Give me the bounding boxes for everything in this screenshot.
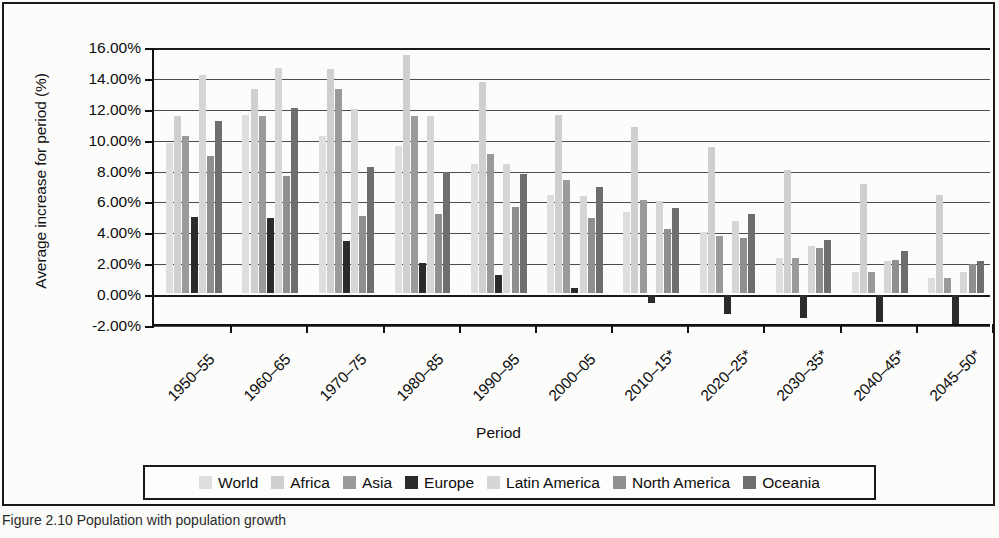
bar[interactable]: [215, 121, 222, 293]
bar[interactable]: [182, 136, 189, 293]
bar[interactable]: [672, 208, 679, 293]
bar-group: [547, 48, 603, 324]
legend-item-oceania[interactable]: Oceania: [743, 474, 820, 492]
bar[interactable]: [901, 251, 908, 293]
bar[interactable]: [724, 295, 731, 314]
bar[interactable]: [291, 108, 298, 293]
x-axis-tick-label: 1950–55: [164, 350, 218, 404]
y-axis-tick-label: 8.00%: [97, 162, 141, 180]
x-axis-tick: [383, 324, 385, 333]
legend-item-africa[interactable]: Africa: [271, 474, 330, 492]
bar[interactable]: [520, 174, 527, 293]
bar[interactable]: [359, 216, 366, 293]
bar[interactable]: [868, 272, 875, 293]
legend-swatch-icon: [343, 476, 356, 489]
bar[interactable]: [251, 89, 258, 293]
bar[interactable]: [876, 295, 883, 322]
bar[interactable]: [555, 115, 562, 293]
bar[interactable]: [343, 241, 350, 293]
bar[interactable]: [784, 170, 791, 294]
bar[interactable]: [852, 272, 859, 294]
bar[interactable]: [275, 68, 282, 293]
bar[interactable]: [740, 238, 747, 293]
bar[interactable]: [395, 146, 402, 293]
gridline: [154, 326, 990, 327]
bar[interactable]: [207, 156, 214, 293]
bar[interactable]: [716, 236, 723, 293]
bar[interactable]: [944, 278, 951, 293]
bar[interactable]: [403, 55, 410, 293]
bar-group: [242, 48, 298, 324]
bar[interactable]: [936, 195, 943, 293]
legend-label: Africa: [290, 474, 330, 492]
bar[interactable]: [580, 196, 587, 293]
bar[interactable]: [800, 295, 807, 317]
bar[interactable]: [656, 201, 663, 293]
bar[interactable]: [267, 218, 274, 293]
y-axis-tick: [145, 141, 154, 143]
x-axis-tick-label: 1980–85: [393, 350, 447, 404]
bar[interactable]: [928, 278, 935, 293]
bar[interactable]: [479, 82, 486, 293]
bar[interactable]: [884, 261, 891, 293]
bar[interactable]: [547, 195, 554, 293]
bar[interactable]: [487, 154, 494, 293]
bar[interactable]: [503, 164, 510, 293]
bar[interactable]: [335, 89, 342, 294]
bar-group: [852, 48, 908, 324]
bar[interactable]: [860, 184, 867, 293]
bar[interactable]: [588, 218, 595, 293]
bar[interactable]: [191, 217, 198, 293]
bar[interactable]: [969, 264, 976, 293]
bar[interactable]: [824, 240, 831, 293]
bar[interactable]: [283, 176, 290, 293]
bar[interactable]: [319, 136, 326, 293]
bar[interactable]: [495, 275, 502, 293]
bar[interactable]: [664, 229, 671, 293]
legend-item-world[interactable]: World: [199, 474, 258, 492]
bar[interactable]: [816, 248, 823, 293]
bar[interactable]: [571, 288, 578, 293]
bar[interactable]: [640, 200, 647, 293]
bar[interactable]: [512, 207, 519, 293]
bar[interactable]: [892, 260, 899, 293]
bar[interactable]: [732, 221, 739, 293]
legend-item-europe[interactable]: Europe: [405, 474, 474, 492]
bar[interactable]: [427, 116, 434, 293]
bar[interactable]: [471, 164, 478, 293]
bar[interactable]: [411, 116, 418, 293]
bar[interactable]: [199, 75, 206, 294]
bar[interactable]: [623, 212, 630, 293]
bar[interactable]: [367, 167, 374, 293]
x-axis-tick-label: 2030–35*: [773, 346, 832, 405]
legend-item-north-america[interactable]: North America: [613, 474, 730, 492]
bar[interactable]: [952, 295, 959, 324]
bar[interactable]: [792, 258, 799, 293]
bar[interactable]: [700, 232, 707, 293]
bar[interactable]: [648, 295, 655, 303]
bar[interactable]: [174, 116, 181, 294]
bar[interactable]: [808, 246, 815, 293]
bar[interactable]: [977, 261, 984, 293]
legend-label: Europe: [424, 474, 474, 492]
legend-item-latin-america[interactable]: Latin America: [487, 474, 600, 492]
legend-item-asia[interactable]: Asia: [343, 474, 392, 492]
y-axis-tick-label: 4.00%: [97, 224, 141, 242]
bar[interactable]: [708, 147, 715, 293]
bar[interactable]: [327, 69, 334, 293]
bar[interactable]: [259, 116, 266, 294]
bar[interactable]: [596, 187, 603, 293]
bar[interactable]: [776, 258, 783, 293]
bar[interactable]: [960, 272, 967, 293]
bar[interactable]: [748, 214, 755, 293]
bar[interactable]: [435, 214, 442, 294]
bar[interactable]: [166, 143, 173, 293]
bar[interactable]: [242, 115, 249, 293]
bar[interactable]: [351, 109, 358, 294]
bar[interactable]: [631, 127, 638, 293]
figure-caption: Figure 2.10 Population with population g…: [2, 512, 702, 536]
bar[interactable]: [443, 172, 450, 293]
bar[interactable]: [563, 180, 570, 294]
bar[interactable]: [419, 263, 426, 293]
x-axis-tick-label: 1960–65: [240, 350, 294, 404]
